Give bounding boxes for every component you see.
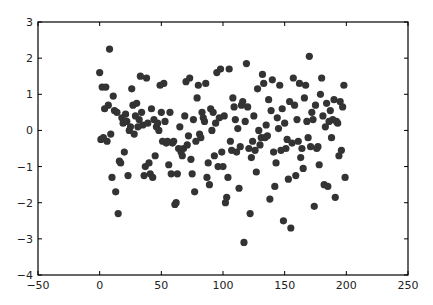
data-point xyxy=(122,111,129,118)
data-point xyxy=(137,73,144,80)
y-tick-label: 2 xyxy=(26,52,33,65)
data-point xyxy=(217,65,224,72)
data-point xyxy=(259,71,266,78)
data-point xyxy=(271,183,278,190)
data-point xyxy=(280,217,287,224)
data-point xyxy=(232,116,239,123)
data-point xyxy=(110,92,117,99)
data-point xyxy=(211,152,218,159)
data-point xyxy=(308,109,315,116)
data-point xyxy=(276,82,283,89)
data-point xyxy=(145,159,152,166)
data-point xyxy=(107,130,114,137)
data-point xyxy=(248,154,255,161)
data-point xyxy=(306,53,313,60)
data-point xyxy=(235,185,242,192)
data-point xyxy=(279,105,286,112)
data-point xyxy=(115,210,122,217)
data-point xyxy=(187,156,194,163)
data-point xyxy=(274,114,281,121)
data-point xyxy=(288,139,295,146)
data-point xyxy=(127,123,134,130)
data-point xyxy=(173,199,180,206)
data-point xyxy=(339,103,346,110)
x-tick-label: 200 xyxy=(336,279,357,292)
data-point xyxy=(148,105,155,112)
data-point xyxy=(255,127,262,134)
data-point xyxy=(128,85,135,92)
data-point xyxy=(165,161,172,168)
data-point xyxy=(234,125,241,132)
data-point xyxy=(106,46,113,53)
data-point xyxy=(140,172,147,179)
data-point xyxy=(96,69,103,76)
data-point xyxy=(249,138,256,145)
data-point xyxy=(266,196,273,203)
y-tick-label: −4 xyxy=(17,269,33,282)
data-point xyxy=(340,82,347,89)
data-point xyxy=(264,132,271,139)
data-point xyxy=(342,174,349,181)
data-point xyxy=(205,159,212,166)
data-point xyxy=(243,60,250,67)
data-point xyxy=(174,170,181,177)
data-point xyxy=(185,132,192,139)
data-point xyxy=(293,116,300,123)
data-point xyxy=(208,127,215,134)
data-point xyxy=(334,120,341,127)
data-point xyxy=(108,174,115,181)
data-point xyxy=(170,138,177,145)
data-point xyxy=(184,141,191,148)
data-point xyxy=(190,116,197,123)
data-point xyxy=(144,120,151,127)
data-point xyxy=(206,181,213,188)
data-point xyxy=(295,138,302,145)
data-point xyxy=(297,154,304,161)
data-point xyxy=(176,123,183,130)
data-point xyxy=(138,109,145,116)
data-point xyxy=(203,174,210,181)
data-point xyxy=(229,94,236,101)
data-point xyxy=(312,102,319,109)
data-point xyxy=(291,102,298,109)
data-point xyxy=(282,145,289,152)
data-point xyxy=(287,224,294,231)
data-point xyxy=(201,118,208,125)
data-point xyxy=(292,172,299,179)
y-tick-label: −1 xyxy=(17,161,33,174)
data-point xyxy=(265,96,272,103)
data-point xyxy=(260,80,267,87)
data-point xyxy=(166,109,173,116)
data-point xyxy=(324,183,331,190)
data-point xyxy=(117,159,124,166)
data-point xyxy=(242,118,249,125)
data-point xyxy=(275,125,282,132)
data-point xyxy=(181,112,188,119)
data-point xyxy=(316,161,323,168)
data-point xyxy=(161,118,168,125)
y-tick-label: 1 xyxy=(26,88,33,101)
data-point xyxy=(103,138,110,145)
data-point xyxy=(268,107,275,114)
data-point xyxy=(330,96,337,103)
data-point xyxy=(269,76,276,83)
data-point xyxy=(231,103,238,110)
x-tick-label: 0 xyxy=(96,279,103,292)
data-point xyxy=(314,143,321,150)
data-point xyxy=(158,109,165,116)
data-point xyxy=(102,83,109,90)
data-point xyxy=(256,141,263,148)
scatter-chart: −50050100150200250 −4−3−2−10123 xyxy=(0,0,433,305)
data-point xyxy=(179,152,186,159)
data-point xyxy=(133,100,140,107)
data-point xyxy=(105,102,112,109)
data-point xyxy=(154,120,161,127)
data-point xyxy=(112,188,119,195)
data-point xyxy=(218,149,225,156)
data-point xyxy=(143,74,150,81)
data-point xyxy=(221,112,228,119)
data-point xyxy=(270,149,277,156)
y-tick-label: −3 xyxy=(17,233,33,246)
data-point xyxy=(301,94,308,101)
data-point xyxy=(244,103,251,110)
